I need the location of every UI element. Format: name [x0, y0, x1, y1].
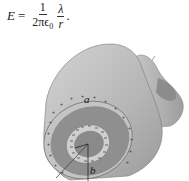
formula-fraction-lambda-over-r: λ r — [57, 3, 64, 30]
fraction-denominator: 2πϵ0 — [32, 15, 53, 31]
label-a: a — [84, 93, 90, 105]
label-b: b — [90, 164, 96, 176]
coaxial-cable-figure: ++++ +++ ++++ ++++ +++ a b — [0, 40, 189, 181]
formula-equals: = — [18, 8, 25, 24]
svg-text:+: + — [70, 95, 73, 101]
svg-text:+: + — [126, 159, 129, 165]
svg-text:+: + — [60, 101, 63, 107]
svg-text:+: + — [129, 148, 132, 154]
svg-text:+: + — [47, 130, 50, 136]
formula-lhs: E — [7, 8, 15, 24]
svg-text:+: + — [93, 94, 96, 100]
denominator-text: 2πϵ — [32, 15, 49, 29]
svg-text:+: + — [49, 152, 52, 158]
svg-text:+: + — [52, 109, 55, 115]
fraction-numerator: 1 — [39, 1, 47, 15]
lambda-numerator: λ — [57, 3, 64, 17]
svg-text:+: + — [47, 141, 50, 147]
svg-text:+: + — [114, 105, 117, 111]
svg-text:+: + — [122, 114, 125, 120]
svg-text:+: + — [49, 119, 52, 125]
coaxial-cable-illustration: ++++ +++ ++++ ++++ +++ — [0, 40, 189, 181]
formula-fraction-constant: 1 2πϵ0 — [32, 1, 53, 31]
svg-text:+: + — [54, 162, 57, 168]
svg-text:+: + — [104, 98, 107, 104]
svg-text:+: + — [130, 136, 133, 142]
r-denominator: r — [58, 17, 63, 30]
epsilon-subscript: 0 — [49, 22, 53, 31]
svg-text:+: + — [128, 125, 131, 131]
formula-period: . — [66, 8, 69, 24]
electric-field-formula: E = 1 2πϵ0 λ r . — [7, 2, 70, 30]
